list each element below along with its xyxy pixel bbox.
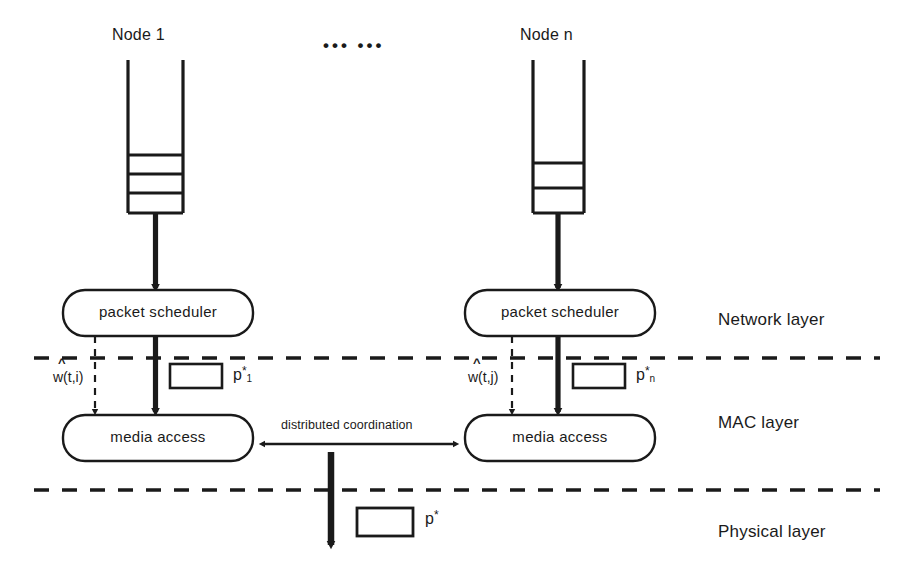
noden-title: Node n [520,26,573,44]
mac-layer-label: MAC layer [718,413,799,433]
node1-packet-label: p*1 [233,364,252,384]
noden-weight-label: w(t,j) [468,369,498,385]
node1-weight-label: w(t,i) [53,369,83,385]
architecture-diagram [0,0,904,577]
node1-packet-label-sub: 1 [247,373,253,384]
output-packet-label-base: p [425,510,434,527]
noden-weight-label-group: ^ w(t,j) [468,368,498,386]
output-packet-label: p* [425,508,439,528]
distributed-coordination-label: distributed coordination [281,418,413,432]
noden-packet-label-base: p [636,366,645,383]
node1-queue [128,60,183,213]
noden-media-access-label: media access [465,428,655,445]
nodes-ellipsis: ••• ••• [323,36,384,56]
noden-packet-scheduler-label: packet scheduler [465,303,655,320]
node1-title: Node 1 [112,26,165,44]
node1-packet-rect [170,364,222,388]
noden-weight-hat-accent: ^ [473,355,481,370]
network-layer-label: Network layer [718,310,825,330]
node1-media-access-label: media access [63,428,253,445]
node1-weight-label-group: ^ w(t,i) [53,368,83,386]
output-packet-rect [357,508,413,536]
noden-packet-label-sub: n [650,373,656,384]
noden-packet-rect [573,364,625,388]
noden-packet-label: p*n [636,364,655,384]
node1-weight-hat-accent: ^ [58,355,66,370]
output-packet-label-sup: * [434,508,439,522]
node1-packet-scheduler-label: packet scheduler [63,303,253,320]
physical-layer-label: Physical layer [718,522,826,542]
noden-queue [533,60,584,213]
node1-packet-label-base: p [233,366,242,383]
